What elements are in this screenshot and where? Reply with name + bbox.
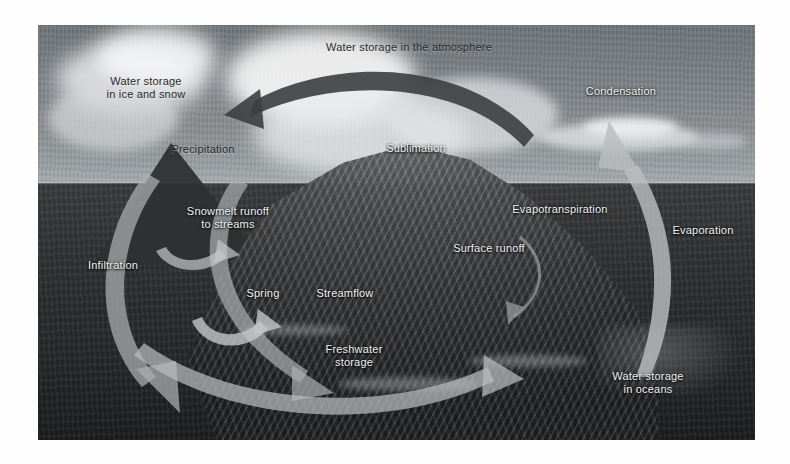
infiltration-arrow xyxy=(106,173,180,413)
surface-runoff-arrow xyxy=(506,237,540,325)
evaporation-arrow xyxy=(598,121,671,377)
water-cycle-photo: Water storage in the atmosphere Water st… xyxy=(38,25,755,440)
arrow-overlay xyxy=(38,25,755,440)
atmosphere-transport-arrow xyxy=(224,72,534,147)
snowmelt-arrow xyxy=(210,177,334,401)
ocean-return-arrow xyxy=(134,343,524,415)
figure-canvas: Water storage in the atmosphere Water st… xyxy=(0,0,790,464)
